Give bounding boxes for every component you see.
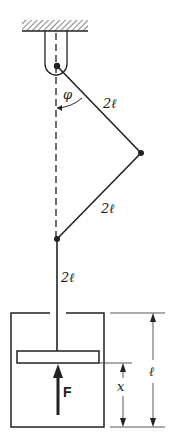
height-label: ℓ bbox=[149, 364, 155, 379]
x-arrow-up-icon bbox=[120, 363, 126, 372]
upper-link bbox=[57, 66, 141, 153]
force-arrow-icon bbox=[53, 364, 63, 378]
angle-label: φ bbox=[63, 87, 73, 102]
right-joint bbox=[138, 150, 144, 156]
upper-link-label: 2ℓ bbox=[102, 96, 117, 111]
rod-label: 2ℓ bbox=[60, 270, 75, 285]
ceiling-hatch bbox=[22, 20, 88, 31]
force-label: F bbox=[63, 384, 72, 400]
piston bbox=[17, 351, 99, 363]
angle-arc-arrow-icon bbox=[57, 105, 62, 111]
x-arrow-down-icon bbox=[120, 418, 126, 427]
height-arrow-up-icon bbox=[150, 313, 156, 322]
x-label: x bbox=[117, 379, 125, 394]
middle-link bbox=[57, 153, 141, 239]
middle-link-label: 2ℓ bbox=[100, 201, 115, 216]
top-pivot-joint bbox=[54, 63, 60, 69]
linkage-diagram: φ 2ℓ 2ℓ 2ℓ F ℓ x bbox=[0, 0, 172, 440]
ceiling-support bbox=[22, 20, 88, 31]
height-arrow-down-icon bbox=[150, 418, 156, 427]
